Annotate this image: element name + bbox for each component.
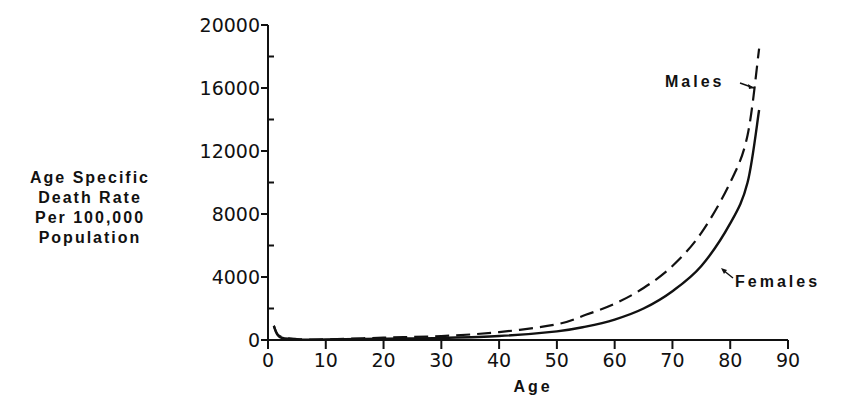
x-tick-label: 50 bbox=[545, 349, 569, 371]
y-tick-label: 4000 bbox=[212, 266, 260, 288]
x-tick-label: 90 bbox=[776, 349, 800, 371]
curves bbox=[274, 49, 759, 340]
chart-plot: 0102030405060708090040008000120001600020… bbox=[0, 0, 847, 412]
annotations: MalesFemales bbox=[665, 73, 820, 290]
x-tick-label: 70 bbox=[660, 349, 684, 371]
females-label: Females bbox=[735, 273, 820, 290]
y-tick-label: 0 bbox=[248, 329, 260, 351]
x-tick-label: 30 bbox=[429, 349, 453, 371]
females-curve bbox=[274, 110, 759, 340]
x-tick-label: 80 bbox=[718, 349, 742, 371]
y-tick-label: 8000 bbox=[212, 203, 260, 225]
males-curve bbox=[274, 49, 759, 340]
x-tick-label: 10 bbox=[314, 349, 338, 371]
y-tick-label: 20000 bbox=[200, 14, 260, 36]
y-tick-label: 12000 bbox=[200, 140, 260, 162]
x-tick-label: 20 bbox=[371, 349, 395, 371]
males-label: Males bbox=[665, 73, 724, 90]
x-axis-title: Age bbox=[513, 378, 552, 395]
x-tick-label: 60 bbox=[603, 349, 627, 371]
x-tick-label: 0 bbox=[262, 349, 274, 371]
x-tick-label: 40 bbox=[487, 349, 511, 371]
y-tick-label: 16000 bbox=[200, 77, 260, 99]
